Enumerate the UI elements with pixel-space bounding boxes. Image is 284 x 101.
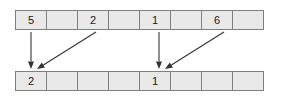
array-cell: 6	[201, 10, 233, 30]
array-cell	[170, 71, 202, 91]
array-cell-value: 5	[28, 14, 34, 25]
array-cell-value: 2	[28, 75, 34, 86]
array-cell	[232, 10, 264, 30]
arrow-head-icon	[165, 62, 173, 69]
array-cell-value: 1	[152, 14, 158, 25]
arrow-cell4-vertical	[156, 32, 162, 69]
array-cell: 1	[139, 71, 171, 91]
array-cell	[170, 10, 202, 30]
arrow-shaft	[171, 32, 224, 65]
arrow-cell0-vertical	[28, 32, 34, 69]
array-cell-value: 2	[90, 14, 96, 25]
array-cell: 1	[139, 10, 171, 30]
array-cell: 5	[15, 10, 47, 30]
destination-array: 21	[15, 71, 271, 91]
array-cell	[201, 71, 233, 91]
arrow-shaft	[43, 32, 96, 65]
array-cell	[46, 71, 78, 91]
arrow-head-icon	[156, 62, 162, 70]
array-cell	[77, 71, 109, 91]
arrow-head-icon	[28, 62, 34, 70]
array-cell: 2	[15, 71, 47, 91]
array-cell	[108, 10, 140, 30]
array-cell	[232, 71, 264, 91]
array-cell: 2	[77, 10, 109, 30]
array-cell	[46, 10, 78, 30]
array-cell-value: 1	[152, 75, 158, 86]
array-mapping-diagram: 5216 21	[0, 0, 284, 101]
arrow-cell2-diagonal	[37, 32, 96, 69]
arrow-cell6-diagonal	[165, 32, 224, 69]
array-cell	[108, 71, 140, 91]
arrow-head-icon	[37, 62, 45, 69]
array-cell-value: 6	[214, 14, 220, 25]
source-array: 5216	[15, 10, 271, 30]
